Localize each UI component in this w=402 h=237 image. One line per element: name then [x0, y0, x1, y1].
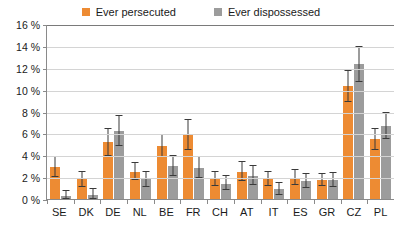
error-bar: [172, 156, 173, 176]
chart-legend: Ever persecutedEver dispossessed: [0, 4, 402, 20]
y-tick-label: 2 %: [22, 172, 40, 184]
x-tick-label: ES: [287, 205, 314, 225]
y-tick-label: 0 %: [22, 194, 40, 206]
x-tick-mark: [234, 200, 235, 204]
legend-swatch-icon: [82, 8, 90, 16]
x-tick-label: PL: [367, 205, 394, 225]
gridline: [47, 156, 394, 157]
bar: [354, 64, 364, 200]
x-tick-mark: [367, 200, 368, 204]
error-bar-cap-lower: [169, 175, 176, 176]
error-bar-cap-upper: [211, 171, 218, 172]
error-bar-cap-upper: [78, 171, 85, 172]
error-bar-cap-lower: [372, 149, 379, 150]
legend-item: Ever persecuted: [82, 7, 176, 18]
error-bar: [359, 47, 360, 82]
error-bar-cap-lower: [131, 179, 138, 180]
error-bar-cap-upper: [105, 128, 112, 129]
error-bar: [81, 172, 82, 187]
error-bar-cap-lower: [51, 176, 58, 177]
y-tick-mark: [43, 25, 47, 26]
error-bar-cap-lower: [276, 194, 283, 195]
y-tick-mark: [43, 69, 47, 70]
x-tick-mark: [341, 200, 342, 204]
x-tick-mark: [47, 200, 48, 204]
error-bar: [161, 135, 162, 157]
x-tick-mark: [100, 200, 101, 204]
x-tick-label: GR: [314, 205, 341, 225]
error-bar-cap-lower: [329, 186, 336, 187]
error-bar: [348, 71, 349, 102]
x-tick-label: CZ: [340, 205, 367, 225]
error-bar-cap-lower: [356, 81, 363, 82]
y-axis-labels: 0 %2 %4 %6 %8 %10 %12 %14 %16 %: [0, 25, 46, 200]
error-bar-cap-lower: [249, 184, 256, 185]
y-tick-label: 14 %: [16, 41, 40, 53]
error-bar-cap-lower: [318, 185, 325, 186]
y-tick-label: 6 %: [22, 128, 40, 140]
y-tick-label: 8 %: [22, 107, 40, 119]
error-bar-cap-upper: [238, 161, 245, 162]
y-tick-label: 4 %: [22, 150, 40, 162]
error-bar-cap-lower: [383, 138, 390, 139]
error-bar-cap-lower: [211, 185, 218, 186]
legend-label: Ever dispossessed: [228, 7, 320, 18]
x-tick-label: IT: [260, 205, 287, 225]
x-tick-mark: [261, 200, 262, 204]
error-bar-cap-upper: [303, 173, 310, 174]
error-bar-cap-lower: [116, 145, 123, 146]
x-tick-mark: [207, 200, 208, 204]
x-tick-label: DE: [100, 205, 127, 225]
gridline: [47, 113, 394, 114]
error-bar-cap-upper: [185, 119, 192, 120]
error-bar-cap-lower: [303, 187, 310, 188]
y-tick-mark: [43, 47, 47, 48]
error-bar-cap-upper: [89, 188, 96, 189]
x-axis-labels: SEDKDENLBEFRCHATITESGRCZPL: [46, 205, 394, 225]
x-tick-label: SE: [46, 205, 73, 225]
x-tick-mark: [74, 200, 75, 204]
x-tick-label: NL: [126, 205, 153, 225]
error-bar-cap-lower: [292, 184, 299, 185]
gridline: [47, 91, 394, 92]
legend-swatch-icon: [214, 8, 222, 16]
axis-baseline: [47, 199, 394, 200]
gridline: [47, 134, 394, 135]
y-tick-mark: [43, 91, 47, 92]
error-bar: [119, 116, 120, 147]
error-bar-cap-upper: [329, 172, 336, 173]
error-bar-cap-upper: [345, 70, 352, 71]
error-bar-cap-lower: [78, 186, 85, 187]
x-tick-mark: [287, 200, 288, 204]
x-tick-label: FR: [180, 205, 207, 225]
x-tick-mark: [127, 200, 128, 204]
x-tick-label: DK: [73, 205, 100, 225]
x-tick-label: AT: [233, 205, 260, 225]
y-tick-mark: [43, 200, 47, 201]
error-bar-cap-upper: [131, 162, 138, 163]
error-bar-cap-lower: [265, 185, 272, 186]
legend-label: Ever persecuted: [96, 7, 176, 18]
error-bar-cap-lower: [142, 186, 149, 187]
x-tick-label: BE: [153, 205, 180, 225]
error-bar: [145, 172, 146, 187]
error-bar-cap-lower: [238, 180, 245, 181]
x-tick-mark: [314, 200, 315, 204]
error-bar-cap-upper: [276, 182, 283, 183]
x-tick-label: CH: [207, 205, 234, 225]
x-tick-mark: [180, 200, 181, 204]
error-bar: [332, 173, 333, 187]
error-bar-cap-upper: [249, 165, 256, 166]
error-bar-cap-lower: [345, 101, 352, 102]
gridline: [47, 178, 394, 179]
error-bar-cap-lower: [222, 189, 229, 190]
error-bar-cap-upper: [222, 175, 229, 176]
error-bar: [306, 174, 307, 188]
error-bar-cap-upper: [116, 115, 123, 116]
error-bar-cap-upper: [372, 128, 379, 129]
y-tick-label: 10 %: [16, 85, 40, 97]
y-tick-mark: [43, 178, 47, 179]
error-bar-cap-upper: [318, 173, 325, 174]
y-tick-mark: [43, 156, 47, 157]
gridline: [47, 47, 394, 48]
